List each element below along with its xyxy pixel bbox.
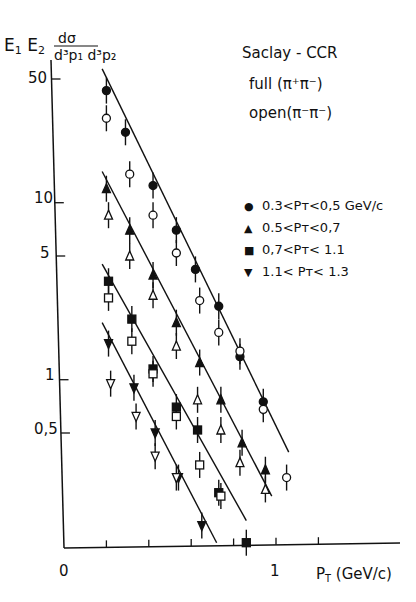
data-point-triangle-up — [149, 282, 157, 308]
legend-item-4: 1.1< Pᴛ< 1.3 — [262, 264, 349, 279]
legend-circle-icon: ● — [244, 200, 254, 213]
legend-item-1: 0.3<Pᴛ<0,5 GeV/c — [262, 198, 383, 213]
data-point-triangle-down — [198, 513, 206, 539]
data-point-triangle-up — [172, 333, 180, 359]
data-point-circle — [172, 217, 180, 243]
data-point-triangle-down — [132, 403, 140, 429]
data-point-square — [105, 285, 113, 311]
ylabel-e1: E — [4, 35, 15, 55]
y-tick-label-10: 10 — [34, 189, 53, 207]
data-point-circle — [191, 256, 199, 282]
data-point-triangle-up — [126, 243, 134, 269]
y-tick-label-5: 5 — [40, 244, 50, 262]
data-point-circle — [215, 319, 223, 345]
x-tick-label-0: 0 — [59, 562, 69, 580]
data-point-triangle-up — [102, 176, 110, 202]
y-tick-label-1: 1 — [45, 366, 55, 384]
data-point-triangle-up — [126, 217, 134, 243]
data-point-triangle-up — [172, 310, 180, 336]
x-tick-label-1: 1 — [270, 562, 280, 580]
legend-item-2: 0.5<Pᴛ<0,7 — [262, 220, 341, 235]
data-point-triangle-down — [107, 371, 115, 397]
y-axis — [51, 60, 64, 548]
data-point-triangle-up — [261, 476, 269, 502]
data-point-triangle-down — [105, 331, 113, 357]
plot-area — [0, 0, 416, 602]
legend-item-3: 0,7<Pᴛ< 1.1 — [262, 242, 345, 257]
y-axis-label: E1 E2 — [4, 35, 45, 57]
data-point-circle — [149, 202, 157, 228]
data-point-circle — [102, 105, 110, 131]
data-point-triangle-up — [217, 387, 225, 413]
data-point-circle — [172, 240, 180, 266]
data-point-square — [128, 306, 136, 332]
x-axis-label: PT (GeV/c) — [316, 565, 392, 584]
data-point-triangle-down — [151, 420, 159, 446]
legend-triangle-up-icon: ▲ — [244, 222, 252, 235]
data-point-circle — [126, 161, 134, 187]
ylabel-e2-sub: 2 — [38, 44, 45, 57]
data-point-square — [196, 452, 204, 478]
fit-line — [102, 264, 246, 520]
data-point-circle — [283, 465, 291, 491]
ylabel-e1-sub: 1 — [15, 44, 22, 57]
ylabel-denominator: d³p₁ d³p₂ — [54, 47, 116, 63]
chart-subtitle-full: full (π⁺π⁻) — [249, 75, 323, 93]
fit-lines — [102, 69, 289, 543]
data-point-circle — [196, 288, 204, 314]
data-point-triangle-down — [151, 443, 159, 469]
y-tick-label-50: 50 — [28, 69, 47, 87]
legend-square-icon: ■ — [244, 244, 254, 257]
data-point-triangle-up — [194, 387, 202, 413]
chart-title: Saclay - CCR — [242, 44, 338, 62]
data-point-triangle-up — [217, 417, 225, 443]
ylabel-numerator: dσ — [58, 30, 76, 46]
xlabel-sub: T — [325, 573, 331, 584]
xlabel-p: P — [316, 565, 325, 583]
x-axis — [64, 543, 400, 548]
data-point-square — [128, 328, 136, 354]
data-point-circle — [149, 173, 157, 199]
data-point-circle — [102, 78, 110, 104]
xlabel-unit: (GeV/c) — [336, 565, 392, 583]
data-point-triangle-up — [105, 202, 113, 228]
ylabel-e2: E — [27, 35, 38, 55]
chart-subtitle-open: open(π⁻π⁻) — [249, 104, 332, 122]
data-point-square — [242, 530, 250, 556]
legend-triangle-down-icon: ▼ — [244, 266, 252, 279]
data-points — [102, 78, 290, 556]
y-tick-label-0-5: 0,5 — [34, 420, 58, 438]
